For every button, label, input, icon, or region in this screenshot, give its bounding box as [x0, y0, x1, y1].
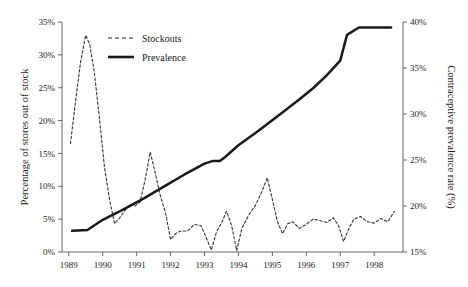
series-line-stockouts — [70, 35, 394, 251]
y2-axis-tick-label: 30% — [410, 109, 427, 119]
y-axis-tick-label: 0% — [43, 247, 56, 257]
y-axis-title: Percentage of stores out of stock — [19, 68, 30, 206]
y-axis-tick-label: 10% — [39, 181, 56, 191]
y2-axis-tick-label: 35% — [410, 63, 427, 73]
x-axis-tick-label: 1997 — [331, 260, 350, 270]
x-axis-tick-label: 1995 — [263, 260, 282, 270]
x-axis-tick-label: 1991 — [128, 260, 146, 270]
y2-axis-tick-label: 20% — [410, 201, 427, 211]
x-axis-tick-label: 1989 — [60, 260, 79, 270]
dual-axis-line-chart: 0%5%10%15%20%25%30%35%15%20%25%30%35%40%… — [0, 0, 468, 287]
y-axis-tick-label: 5% — [43, 214, 56, 224]
x-axis-tick-label: 1998 — [365, 260, 384, 270]
y2-axis-tick-label: 15% — [410, 247, 427, 257]
chart-figure: 0%5%10%15%20%25%30%35%15%20%25%30%35%40%… — [0, 0, 468, 287]
x-axis-tick-label: 1993 — [196, 260, 215, 270]
x-axis-tick-label: 1990 — [94, 260, 113, 270]
y2-axis-title: Contraceptive prevalence rate (%) — [445, 65, 457, 209]
x-axis-tick-label: 1996 — [297, 260, 316, 270]
y2-axis-tick-label: 40% — [410, 17, 427, 27]
y-axis-tick-label: 20% — [39, 116, 56, 126]
y-axis-tick-label: 30% — [39, 50, 56, 60]
y2-axis-tick-label: 25% — [410, 155, 427, 165]
x-axis-tick-label: 1994 — [229, 260, 248, 270]
legend-label-prevalence: Prevalence — [142, 52, 186, 63]
x-axis-tick-label: 1992 — [162, 260, 180, 270]
y-axis-tick-label: 25% — [39, 83, 56, 93]
y-axis-tick-label: 35% — [39, 17, 56, 27]
y-axis-tick-label: 15% — [39, 149, 56, 159]
legend-label-stockouts: Stockouts — [142, 33, 182, 44]
